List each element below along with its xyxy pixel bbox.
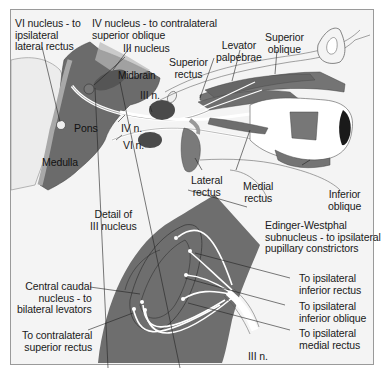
label-iii-nerve-upper: III n. xyxy=(140,90,160,102)
label-central-caudal-nucleus: Central caudal nucleus - to bilateral le… xyxy=(17,281,92,316)
label-iii-nerve-lower: III n. xyxy=(248,351,268,363)
label-to-ipsilateral-inferior-oblique: To ipsilateral inferior oblique xyxy=(299,301,366,324)
label-to-ipsilateral-medial-rectus: To ipsilateral medial rectus xyxy=(299,328,360,351)
cavernous-segment-upper xyxy=(149,100,175,120)
label-levator-palpebrae: Levator palpebrae xyxy=(216,40,262,63)
label-iv-nucleus: IV nucleus - to contralateral superior o… xyxy=(92,18,217,41)
label-vi-nerve: VI n. xyxy=(123,140,144,152)
label-detail-iii-nucleus: Detail of III nucleus xyxy=(90,209,137,232)
label-midbrain: Midbrain xyxy=(118,70,156,82)
label-vi-nucleus: VI nucleus - to ipsilateral lateral rect… xyxy=(15,18,81,53)
label-medial-rectus: Medial rectus xyxy=(243,181,273,204)
label-to-ipsilateral-inferior-rectus: To ipsilateral inferior rectus xyxy=(299,273,361,296)
label-iv-nerve: IV n. xyxy=(121,123,142,135)
medial-rectus-insertion xyxy=(290,112,318,140)
vi-nucleus-dot xyxy=(57,121,66,130)
label-medulla: Medulla xyxy=(42,157,78,169)
label-lateral-rectus: Lateral rectus xyxy=(191,175,222,198)
iv-nucleus-dot xyxy=(84,84,94,94)
label-to-contralateral-superior-rectus: To contralateral superior rectus xyxy=(22,330,92,353)
label-superior-oblique: Superior oblique xyxy=(265,32,304,55)
label-inferior-oblique: Inferior oblique xyxy=(328,189,361,212)
label-edinger-westphal: Edinger-Westphal subnucleus - to ipsilat… xyxy=(265,220,381,255)
label-superior-rectus: Superior rectus xyxy=(169,57,208,80)
lateral-rectus-muscle xyxy=(181,128,200,172)
label-pons: Pons xyxy=(74,123,98,135)
label-iii-nucleus: III nucleus xyxy=(123,43,170,55)
